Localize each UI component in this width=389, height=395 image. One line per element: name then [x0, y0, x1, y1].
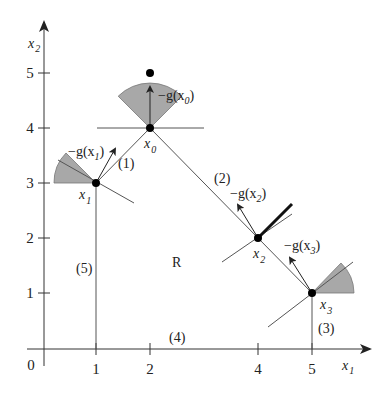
y-tick-label-4: 4	[26, 120, 34, 136]
point-x3	[308, 289, 316, 297]
gradient-labels: −g(x0) −g(x1) −g(x2) −g(x3)	[68, 88, 321, 256]
label-neg-gradient-x3: −g(x3)	[284, 238, 321, 256]
direction-segment-x2	[258, 204, 292, 238]
point-x1	[92, 179, 100, 187]
point-x0	[146, 124, 154, 132]
label-constraint-5: (5)	[76, 261, 93, 277]
label-x3: x3	[319, 297, 332, 316]
point-extra	[146, 69, 154, 77]
label-x0: x0	[143, 136, 156, 155]
x-tick-label-1: 1	[92, 361, 100, 377]
diagram-canvas: 0 1 2 4 5 1 2 3 4 5 x2 x1	[0, 0, 389, 395]
label-x2: x2	[252, 246, 265, 265]
feasible-region-diagram: 0 1 2 4 5 1 2 3 4 5 x2 x1	[0, 0, 389, 395]
label-constraint-2: (2)	[214, 171, 231, 187]
x-tick-label-4: 4	[254, 361, 262, 377]
y-axis-label: x2	[27, 36, 40, 54]
label-x1: x1	[78, 187, 91, 206]
label-neg-gradient-x2: −g(x2)	[230, 186, 267, 204]
x-tick-label-2: 2	[146, 361, 154, 377]
point-x2	[254, 234, 262, 242]
label-constraint-1: (1)	[118, 156, 135, 172]
x-axis-label: x1	[341, 358, 354, 376]
y-tick-label-5: 5	[26, 65, 34, 81]
y-tick-label-1: 1	[26, 285, 34, 301]
origin-label: 0	[27, 357, 35, 373]
label-constraint-3: (3)	[318, 321, 335, 337]
x-tick-label-5: 5	[308, 361, 316, 377]
region-label: R	[172, 255, 182, 270]
y-tick-label-2: 2	[26, 230, 34, 246]
arrow-neg-gradient-x2	[238, 205, 258, 238]
y-tick-label-3: 3	[26, 175, 34, 191]
label-neg-gradient-x1: −g(x1)	[68, 144, 105, 162]
arrow-neg-gradient-x3	[290, 258, 312, 293]
label-constraint-4: (4)	[169, 330, 186, 346]
gradient-arrows	[96, 87, 312, 293]
wedges	[54, 83, 354, 293]
